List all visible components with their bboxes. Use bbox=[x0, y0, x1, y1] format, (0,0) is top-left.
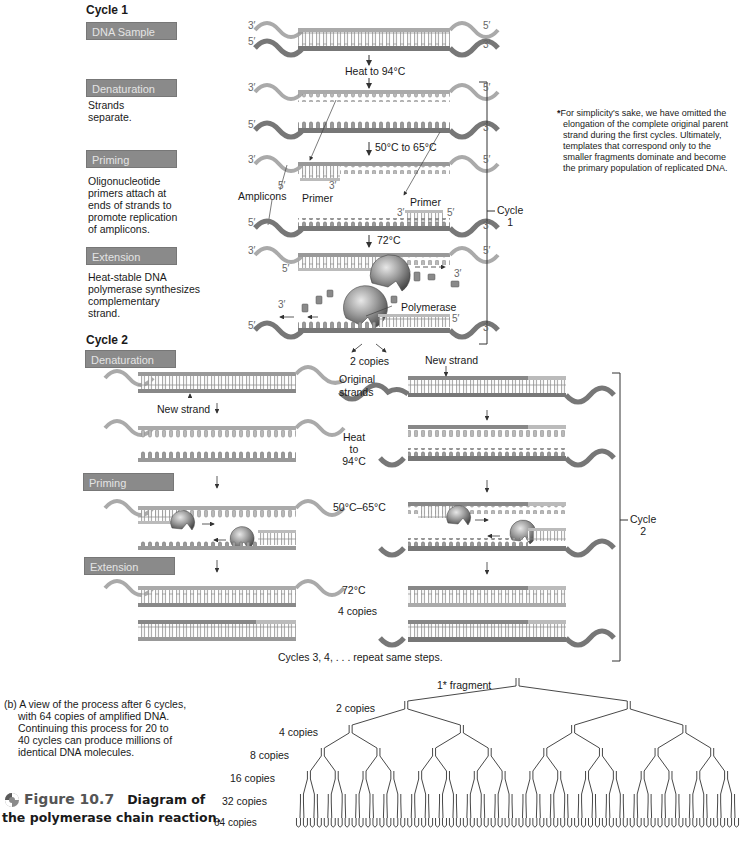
end-label: 3′ bbox=[454, 268, 461, 279]
c2-left-duplex bbox=[105, 367, 344, 393]
polymerase-enzyme-top bbox=[370, 255, 410, 291]
end-label: 3′ bbox=[483, 122, 490, 133]
c2-right-denatured-bottom bbox=[380, 448, 614, 465]
primed-bottom-strand bbox=[255, 210, 498, 235]
anneal-label: 50°C to 65°C bbox=[375, 141, 437, 153]
primer-label-left: Primer bbox=[302, 192, 333, 204]
c2-anneal-label: 50°C–65°C bbox=[333, 501, 386, 513]
end-label: 5′ bbox=[483, 154, 490, 165]
c2-left-primed bbox=[105, 501, 344, 550]
end-label: 3′ bbox=[483, 220, 490, 231]
cycle2-bracket bbox=[612, 373, 620, 661]
end-label: 3′ bbox=[329, 180, 336, 191]
tree-level-label: 4 copies bbox=[279, 726, 318, 738]
c2-right-denatured-top bbox=[408, 425, 566, 437]
figure-caption: Figure 10.7 Diagram of bbox=[24, 792, 205, 807]
polymerase-label: Polymerase bbox=[401, 301, 456, 313]
amplification-tree bbox=[296, 678, 738, 827]
end-label: 5′ bbox=[452, 313, 459, 324]
c2-left-denatured-bottom bbox=[138, 450, 296, 462]
part-b-description: (b) A view of the process after 6 cycles… bbox=[4, 698, 186, 758]
denatured-top-strand bbox=[255, 85, 498, 102]
end-label: 3′ bbox=[278, 299, 285, 310]
step-tag-priming: Priming bbox=[86, 150, 177, 168]
end-label: 5′ bbox=[483, 245, 490, 256]
denatured-bottom-strand bbox=[255, 120, 498, 137]
amplicons-label: Amplicons bbox=[238, 190, 286, 202]
end-label: 3′ bbox=[248, 245, 255, 256]
c2-left-denatured-top bbox=[105, 421, 344, 438]
step-tag-dna-sample: DNA Sample bbox=[86, 22, 177, 40]
dna-sample-duplex bbox=[255, 23, 498, 55]
c2-right-extended-1 bbox=[408, 586, 566, 607]
end-label: 5′ bbox=[483, 20, 490, 31]
step-tag-denaturation: Denaturation bbox=[86, 79, 177, 97]
c2-left-extended-1 bbox=[105, 581, 344, 607]
end-label: 3′ bbox=[397, 207, 404, 218]
c2-step-tag-extension: Extension bbox=[84, 557, 175, 575]
heat-label: Heat to 94°C bbox=[345, 65, 405, 77]
extend-label: 72°C bbox=[377, 234, 400, 246]
end-label: 3′ bbox=[248, 20, 255, 31]
primed-top-strand bbox=[255, 157, 498, 181]
end-label: 3′ bbox=[248, 82, 255, 93]
new-strand-label-left: New strand bbox=[157, 403, 210, 415]
c2-right-duplex bbox=[340, 376, 614, 402]
two-copies-label: 2 copies bbox=[350, 355, 389, 367]
step-tag-extension: Extension bbox=[86, 247, 177, 265]
denaturation-desc: Strands separate. bbox=[88, 99, 132, 123]
new-strand-label-top: New strand bbox=[425, 354, 478, 366]
cycle1-heading: Cycle 1 bbox=[86, 3, 128, 17]
c2-step-tag-priming: Priming bbox=[83, 473, 174, 491]
four-copies-label: 4 copies bbox=[338, 605, 377, 617]
tree-level-label: 32 copies bbox=[222, 795, 267, 807]
repeat-label: Cycles 3, 4, . . . repeat same steps. bbox=[278, 651, 443, 663]
c2-right-primed bbox=[380, 502, 614, 555]
end-label: 3′ bbox=[483, 39, 490, 50]
c2-right-extended-2 bbox=[380, 620, 614, 645]
end-label: 3′ bbox=[248, 154, 255, 165]
tree-level-label: 1* fragment bbox=[437, 679, 491, 691]
cycle2-heading: Cycle 2 bbox=[86, 333, 128, 347]
end-label: 5′ bbox=[248, 36, 255, 47]
c2-left-extended-2 bbox=[138, 620, 296, 641]
end-label: 5′ bbox=[282, 263, 289, 274]
swirl-icon bbox=[5, 793, 19, 807]
tree-level-label: 8 copies bbox=[250, 749, 289, 761]
end-label: 5′ bbox=[248, 119, 255, 130]
end-label: 5′ bbox=[248, 217, 255, 228]
footnote: *For simplicity's sake, we have omitted … bbox=[557, 108, 747, 174]
cycle1-bracket-label: Cycle 1 bbox=[497, 204, 523, 228]
priming-desc: Oligonucleotide primers attach at ends o… bbox=[88, 175, 177, 235]
end-label: 5′ bbox=[483, 82, 490, 93]
end-label: 5′ bbox=[447, 207, 454, 218]
tree-level-label: 2 copies bbox=[336, 702, 375, 714]
c2-step-tag-denaturation: Denaturation bbox=[85, 350, 176, 368]
end-label: 3′ bbox=[483, 322, 490, 333]
figure-number: Figure 10.7 bbox=[24, 791, 114, 807]
end-label: 5′ bbox=[248, 320, 255, 331]
original-strands-label: Original strands bbox=[339, 373, 375, 399]
c2-heat-label: Heat to 94°C bbox=[341, 431, 367, 467]
tree-level-label: 16 copies bbox=[230, 772, 275, 784]
c2-extend-label: 72°C bbox=[342, 584, 365, 596]
figure-caption-line2: the polymerase chain reaction. bbox=[2, 810, 221, 825]
cycle2-bracket-label: Cycle 2 bbox=[630, 513, 656, 537]
extension-desc: Heat-stable DNA polymerase synthesizes c… bbox=[88, 271, 200, 319]
primer-label-right: Primer bbox=[410, 196, 441, 208]
